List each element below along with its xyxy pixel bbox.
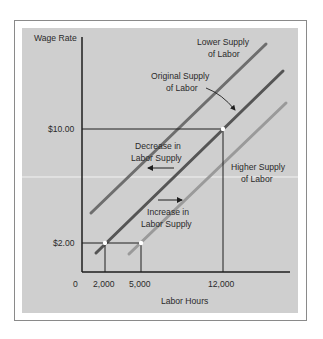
- increase-label-1: Increase in: [147, 207, 189, 217]
- higher-supply-label-2: of Labor: [241, 174, 273, 184]
- decrease-label-1: Decrease in: [135, 141, 181, 151]
- original-supply-label-2: of Labor: [166, 83, 198, 93]
- lower-supply-label-2: of Labor: [208, 49, 240, 59]
- higher-supply-label-1: Higher Supply: [231, 162, 286, 172]
- x-tick-5000: 5,000: [129, 279, 151, 289]
- decrease-label-2: Labor Supply: [131, 153, 182, 163]
- x-tick-12000: 12,000: [208, 279, 235, 289]
- increase-label-2: Labor Supply: [141, 219, 192, 229]
- y-tick-2: $2.00: [53, 238, 75, 248]
- original-supply-label-1: Original Supply: [151, 71, 210, 81]
- x-tick-2000: 2,000: [93, 279, 115, 289]
- point-12000-10: [221, 127, 225, 131]
- y-axis-label: Wage Rate: [34, 33, 77, 43]
- supply-chart: Wage Rate Labor Hours 0 2,000 5,000 12,0…: [0, 0, 323, 339]
- point-5000-2: [139, 241, 143, 245]
- x-axis-label: Labor Hours: [161, 296, 208, 306]
- x-tick-0: 0: [73, 279, 78, 289]
- lower-supply-label-1: Lower Supply: [197, 37, 250, 47]
- y-tick-10: $10.00: [48, 124, 75, 134]
- point-2000-2: [103, 241, 107, 245]
